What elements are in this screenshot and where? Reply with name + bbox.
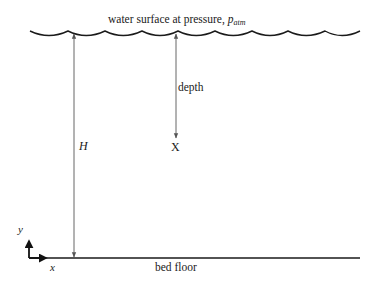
axis-x-label: x [50,262,55,273]
axis-y-label: y [18,224,23,235]
pressure-subscript: atm [233,18,245,27]
point-x-label: X [171,141,180,153]
bed-floor-label: bed floor [155,262,197,274]
water-surface-wave [30,31,360,36]
water-depth-diagram [0,0,377,287]
depth-label: depth [178,82,204,94]
height-label: H [79,140,88,152]
water-surface-label: water surface at pressure, patm [108,14,245,26]
water-surface-label-text: water surface at pressure, [108,13,228,25]
